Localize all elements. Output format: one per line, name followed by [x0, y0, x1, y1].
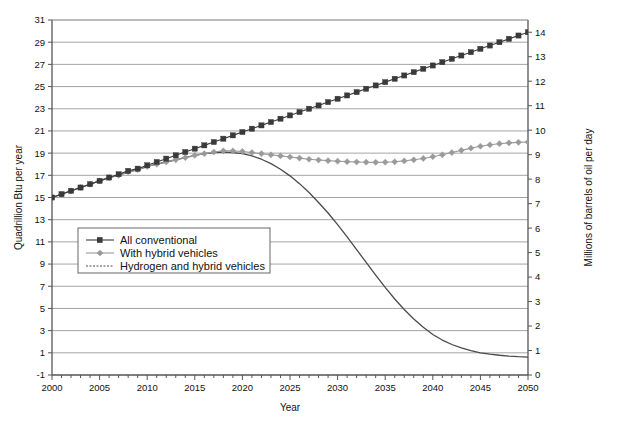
y-tick-label-right: 5: [535, 247, 540, 258]
y-tick-label-right: 8: [535, 174, 540, 185]
x-tick-label: 2040: [422, 382, 443, 393]
y-axis-title-left: Quadrillion Btu per year: [13, 144, 24, 250]
series-marker: [449, 56, 454, 61]
series-marker: [297, 109, 302, 114]
y-tick-label-right: 0: [535, 369, 540, 380]
y-tick-label-left: 7: [40, 281, 45, 292]
series-marker: [421, 66, 426, 71]
x-tick-label: 2010: [137, 382, 158, 393]
y-tick-label-left: 31: [34, 14, 45, 25]
series-marker: [354, 90, 359, 95]
series-marker: [497, 40, 502, 45]
legend-label: Hydrogen and hybrid vehicles: [120, 260, 265, 272]
series-marker: [59, 192, 64, 197]
series-marker: [126, 168, 131, 173]
legend-label: With hybrid vehicles: [120, 247, 218, 259]
legend-marker-square-icon: [97, 237, 103, 243]
series-marker: [345, 93, 350, 98]
series-marker: [154, 159, 159, 164]
y-tick-label-right: 11: [535, 100, 545, 111]
y-tick-label-right: 10: [535, 125, 546, 136]
series-marker: [183, 149, 188, 154]
series-marker: [325, 99, 330, 104]
y-tick-label-left: 17: [34, 170, 45, 181]
y-tick-label-left: 25: [34, 81, 45, 92]
series-marker: [211, 139, 216, 144]
series-marker: [373, 83, 378, 88]
series-marker: [516, 33, 521, 38]
y-tick-label-left: 5: [40, 303, 45, 314]
y-tick-label-left: 21: [34, 125, 45, 136]
y-tick-label-right: 9: [535, 149, 540, 160]
y-tick-label-left: -1: [37, 369, 45, 380]
series-marker: [440, 60, 445, 65]
series-marker: [278, 116, 283, 121]
y-tick-label-right: 14: [535, 27, 546, 38]
series-marker: [402, 73, 407, 78]
y-tick-label-right: 3: [535, 296, 540, 307]
series-marker: [287, 113, 292, 118]
line-chart: -113579111315171921232527293101234567891…: [0, 0, 619, 426]
series-marker: [249, 126, 254, 131]
series-marker: [383, 80, 388, 85]
series-marker: [135, 166, 140, 171]
y-tick-label-right: 12: [535, 76, 546, 87]
y-tick-label-left: 23: [34, 103, 45, 114]
y-tick-label-right: 7: [535, 198, 540, 209]
series-marker: [68, 188, 73, 193]
series-marker: [459, 53, 464, 58]
series-marker: [145, 163, 150, 168]
series-marker: [316, 103, 321, 108]
x-tick-label: 2005: [89, 382, 110, 393]
y-tick-label-left: 19: [34, 148, 45, 159]
series-marker: [335, 96, 340, 101]
legend-label: All conventional: [120, 234, 197, 246]
series-marker: [87, 182, 92, 187]
y-tick-label-left: 11: [35, 236, 45, 247]
x-axis-title: Year: [280, 402, 301, 413]
series-marker: [221, 136, 226, 141]
x-tick-label: 2035: [375, 382, 396, 393]
x-tick-label: 2025: [279, 382, 300, 393]
y-tick-label-left: 27: [34, 59, 45, 70]
series-marker: [78, 185, 83, 190]
legend: All conventionalWith hybrid vehiclesHydr…: [78, 228, 270, 273]
chart-container: -113579111315171921232527293101234567891…: [0, 0, 619, 426]
series-marker: [164, 156, 169, 161]
series-marker: [268, 119, 273, 124]
x-tick-label: 2045: [470, 382, 491, 393]
y-tick-label-right: 13: [535, 51, 546, 62]
series-marker: [364, 86, 369, 91]
y-tick-label-right: 6: [535, 223, 540, 234]
series-marker: [430, 63, 435, 68]
series-marker: [506, 36, 511, 41]
series-marker: [468, 50, 473, 55]
series-marker: [192, 146, 197, 151]
x-tick-label: 2020: [232, 382, 253, 393]
series-marker: [306, 106, 311, 111]
y-tick-label-left: 9: [40, 258, 45, 269]
series-marker: [392, 76, 397, 81]
x-tick-label: 2015: [184, 382, 205, 393]
y-tick-label-right: 4: [535, 271, 540, 282]
y-tick-label-left: 13: [34, 214, 45, 225]
series-marker: [107, 175, 112, 180]
series-marker: [411, 70, 416, 75]
y-tick-label-right: 1: [535, 345, 540, 356]
y-tick-label-left: 3: [40, 325, 45, 336]
x-tick-label: 2030: [327, 382, 348, 393]
series-marker: [259, 123, 264, 128]
series-marker: [230, 133, 235, 138]
y-axis-title-right: Millions of barrels of oil per day: [583, 129, 594, 267]
x-tick-label: 2000: [41, 382, 62, 393]
series-marker: [97, 178, 102, 183]
series-marker: [487, 43, 492, 48]
y-tick-label-left: 29: [34, 37, 45, 48]
series-marker: [173, 153, 178, 158]
y-tick-label-left: 1: [40, 347, 45, 358]
series-marker: [202, 143, 207, 148]
series-marker: [240, 129, 245, 134]
series-marker: [116, 172, 121, 177]
series-marker: [478, 46, 483, 51]
y-tick-label-left: 15: [34, 192, 45, 203]
